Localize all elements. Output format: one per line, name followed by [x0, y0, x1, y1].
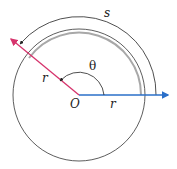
radius-label-right: r — [110, 97, 117, 111]
arc-label: s — [104, 6, 110, 20]
arc-length-diagram: s θ r r O — [0, 0, 177, 169]
highlight-arc — [29, 33, 141, 95]
angle-label: θ — [89, 59, 96, 73]
diagram-svg: s θ r r O — [0, 0, 177, 169]
terminal-ray — [11, 39, 79, 95]
angle-arc — [61, 72, 104, 95]
center-label: O — [70, 97, 80, 111]
radius-label-left: r — [42, 71, 49, 85]
